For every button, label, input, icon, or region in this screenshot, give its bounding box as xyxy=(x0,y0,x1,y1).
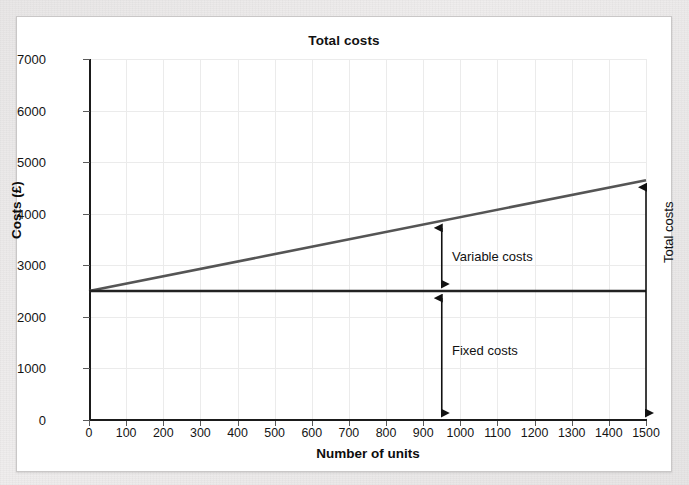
chart-lines xyxy=(17,17,673,473)
annotation-arrows-layer xyxy=(442,187,646,413)
figure-card: Total costs 0100020003000400050006000700… xyxy=(16,16,672,472)
annotation-fixed-costs: Fixed costs xyxy=(452,343,518,358)
series-layer xyxy=(89,180,646,291)
annotation-total-costs: Total costs xyxy=(661,202,676,263)
cost-chart-figure: Total costs 0100020003000400050006000700… xyxy=(17,17,671,471)
series-line xyxy=(89,180,646,291)
annotation-variable-costs: Variable costs xyxy=(452,249,533,264)
